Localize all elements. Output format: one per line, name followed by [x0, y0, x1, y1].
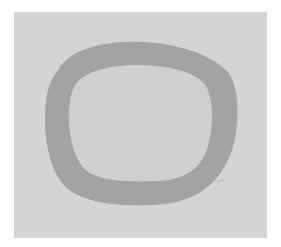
ring-shape	[0, 0, 281, 247]
signature-text: ~~~~	[214, 178, 224, 183]
inner-area	[69, 65, 212, 181]
